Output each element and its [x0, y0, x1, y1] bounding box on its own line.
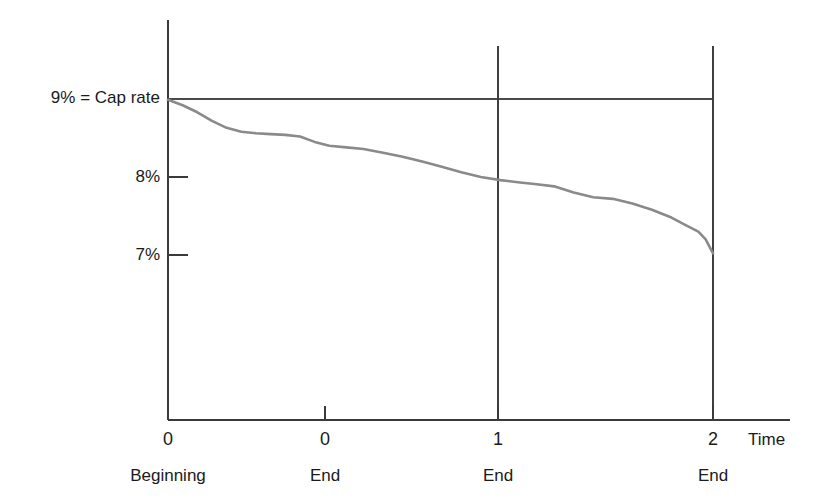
x-axis-sublabel-end-1: End — [483, 466, 513, 485]
chart-canvas: 9% = Cap rate 8% 7% 0 0 1 2 Time Beginni… — [0, 0, 824, 503]
x-axis-sublabel-beginning: Beginning — [130, 466, 206, 485]
x-axis-sublabel-end-0: End — [310, 466, 340, 485]
x-axis-tick-label-2-end: 2 — [708, 429, 718, 449]
x-axis-tick-label-0-end: 0 — [320, 429, 330, 449]
x-axis-name-time: Time — [748, 430, 785, 449]
yield-decline-curve — [168, 100, 713, 254]
chart-figure: 9% = Cap rate 8% 7% 0 0 1 2 Time Beginni… — [0, 0, 824, 503]
y-axis-label-7pct: 7% — [135, 245, 160, 264]
x-axis-sublabel-end-2: End — [698, 466, 728, 485]
x-axis-tick-label-0-beginning: 0 — [163, 429, 173, 449]
y-axis-label-8pct: 8% — [135, 167, 160, 186]
y-axis-label-cap-rate: 9% = Cap rate — [51, 88, 160, 107]
x-axis-tick-label-1-end: 1 — [493, 429, 503, 449]
